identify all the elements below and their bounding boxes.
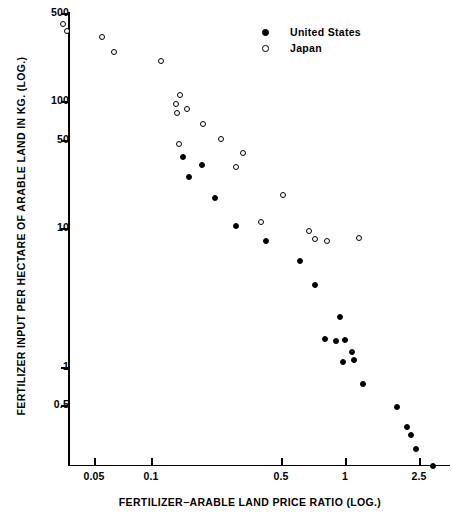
data-point-united-states [297, 258, 304, 265]
legend-label-united-states: United States [290, 24, 361, 40]
data-point-united-states [212, 195, 219, 202]
data-point-united-states [333, 338, 340, 345]
data-point-united-states [394, 404, 401, 411]
data-point-japan [99, 34, 106, 41]
data-point-japan [312, 236, 319, 243]
data-point-japan [60, 21, 67, 28]
data-point-united-states [263, 238, 270, 245]
x-tick-label: 2.5 [389, 470, 449, 482]
data-point-japan [218, 136, 225, 143]
x-tick-label: 0.05 [64, 470, 124, 482]
data-point-japan [280, 192, 287, 199]
scatter-plot-figure: FERTILIZER INPUT PER HECTARE OF ARABLE L… [0, 0, 452, 518]
x-tick-mark [94, 458, 96, 466]
data-point-united-states [180, 154, 187, 161]
x-axis-title: FERTILIZER−ARABLE LAND PRICE RATIO (LOG.… [60, 496, 440, 508]
x-tick-label: 0.1 [121, 470, 181, 482]
x-axis-line [68, 465, 450, 467]
data-point-japan [158, 58, 165, 65]
data-point-japan [200, 121, 207, 128]
data-point-japan [177, 92, 184, 99]
data-point-japan [324, 238, 331, 245]
data-point-japan [176, 141, 183, 148]
data-point-united-states [404, 424, 411, 431]
data-point-japan [111, 49, 118, 56]
data-point-united-states [430, 463, 437, 470]
data-point-united-states [349, 349, 356, 356]
data-point-united-states [340, 359, 347, 366]
x-tick-mark [345, 458, 347, 466]
data-point-japan [306, 228, 313, 235]
filled-circle-icon [262, 29, 269, 36]
y-tick-label: 100 [23, 94, 69, 106]
data-point-japan [173, 101, 180, 108]
x-tick-label: 1 [315, 470, 375, 482]
x-tick-mark [281, 458, 283, 466]
data-point-japan [258, 219, 265, 226]
legend-label-japan: Japan [290, 40, 322, 56]
y-tick-label: 50 [23, 133, 69, 145]
data-point-united-states [186, 174, 193, 181]
data-point-united-states [408, 432, 415, 439]
data-point-united-states [233, 223, 240, 230]
y-tick-label: 500 [23, 6, 69, 18]
data-point-united-states [413, 446, 420, 453]
data-point-japan [240, 150, 247, 157]
open-circle-icon [262, 45, 269, 52]
data-point-united-states [312, 282, 319, 289]
data-point-united-states [342, 337, 349, 344]
data-point-japan [233, 164, 240, 171]
x-tick-mark [151, 458, 153, 466]
data-point-japan [184, 106, 191, 113]
data-point-united-states [337, 314, 344, 321]
x-tick-label: 0.5 [251, 470, 311, 482]
data-point-united-states [199, 162, 206, 169]
x-tick-mark [419, 458, 421, 466]
data-point-japan [174, 110, 181, 117]
data-point-united-states [360, 381, 367, 388]
data-point-united-states [322, 336, 329, 343]
y-tick-label: 10 [23, 221, 69, 233]
y-tick-label: 0.5 [23, 398, 69, 410]
data-point-united-states [351, 357, 358, 364]
y-tick-label: 1 [23, 360, 69, 372]
data-point-japan [356, 235, 363, 242]
